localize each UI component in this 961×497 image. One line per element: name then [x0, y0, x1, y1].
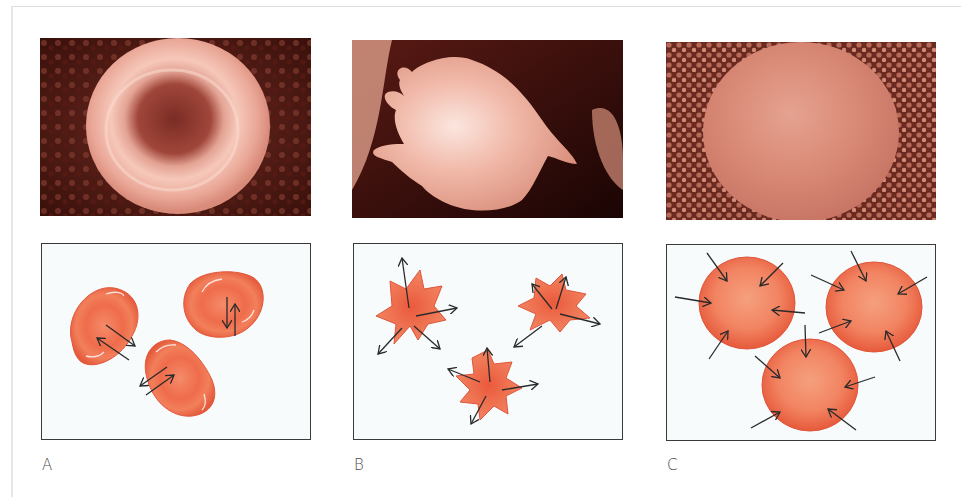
crenated-cell-1 — [376, 270, 446, 344]
photo-a-normal-rbc — [40, 38, 311, 216]
frame-left-border — [11, 6, 13, 497]
rbc-cell-1 — [71, 288, 138, 365]
panel-label-a: A — [42, 456, 52, 474]
panel-label-c: C — [667, 456, 677, 474]
frame-top-border — [12, 6, 961, 7]
rbc-biconcave-shape — [86, 38, 270, 214]
diagram-c-hypotonic — [666, 244, 936, 441]
panel-label-b: B — [354, 456, 364, 474]
diagram-a-isotonic — [41, 243, 311, 440]
swollen-cell-2 — [826, 262, 922, 352]
spherical-cell-shape — [703, 42, 899, 220]
photo-c-swollen-rbc — [666, 42, 937, 220]
rbc-cell-3 — [145, 340, 215, 416]
diagram-b-hypertonic — [353, 243, 623, 440]
crenated-cell-2 — [518, 274, 590, 332]
rbc-cell-2 — [184, 272, 263, 338]
crenated-cell-3 — [456, 350, 522, 420]
swollen-cell-3 — [762, 339, 858, 431]
swollen-cell-1 — [699, 257, 795, 349]
photo-b-crenated-rbc — [352, 40, 623, 218]
